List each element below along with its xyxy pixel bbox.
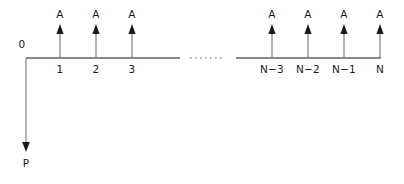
period-label: 1 (57, 63, 64, 75)
period-label: 2 (93, 63, 100, 75)
cashflow-timeline-canvas: 0 P A 1 A 2 A 3 (0, 0, 404, 184)
period-label: N (376, 63, 384, 75)
inflow-amount-label: A (268, 8, 276, 20)
inflow-amount-label: A (92, 8, 100, 20)
period-label: 3 (129, 63, 136, 75)
arrowhead-up-icon (92, 24, 99, 34)
inflow-arrow-period-1: A 1 (56, 8, 64, 75)
inflow-arrow-period-n-minus-1: A N−1 (332, 8, 356, 75)
period-label: N−3 (260, 63, 284, 75)
inflow-arrow-period-n-minus-3: A N−3 (260, 8, 284, 75)
arrowhead-up-icon (128, 24, 135, 34)
arrowhead-up-icon (56, 24, 63, 34)
inflow-arrow-period-n: A N (376, 8, 384, 75)
inflow-arrow-period-3: A 3 (128, 8, 136, 75)
outflow-arrow-P: P (22, 58, 30, 169)
origin-label: 0 (19, 38, 26, 50)
present-value-label: P (23, 157, 30, 169)
period-label: N−1 (332, 63, 356, 75)
inflow-amount-label: A (304, 8, 312, 20)
inflow-amount-label: A (340, 8, 348, 20)
arrowhead-up-icon (304, 24, 311, 34)
cashflow-timeline-diagram: 0 P A 1 A 2 A 3 (0, 0, 404, 184)
arrowhead-up-icon (376, 24, 383, 34)
period-label: N−2 (296, 63, 320, 75)
arrowhead-up-icon (340, 24, 347, 34)
inflow-amount-label: A (376, 8, 384, 20)
inflow-amount-label: A (128, 8, 136, 20)
inflow-amount-label: A (56, 8, 64, 20)
arrowhead-down-icon (22, 142, 30, 152)
inflow-arrow-period-2: A 2 (92, 8, 100, 75)
arrowhead-up-icon (268, 24, 275, 34)
inflow-arrow-period-n-minus-2: A N−2 (296, 8, 320, 75)
